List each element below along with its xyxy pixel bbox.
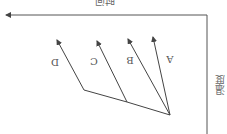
arrow-a xyxy=(153,37,170,115)
arrow-c xyxy=(97,41,127,102)
axes xyxy=(6,15,207,134)
time-axis-label: 时间 xyxy=(95,0,115,7)
arrow-d-label: D xyxy=(51,57,59,68)
arrow-d xyxy=(57,40,84,90)
arrow-b xyxy=(128,39,170,115)
arrow-c-label: C xyxy=(90,56,98,67)
temperature-time-diagram: 时间 温度 A B C D xyxy=(0,0,227,134)
arrow-b-label: B xyxy=(126,55,133,66)
base-line xyxy=(84,90,170,115)
arrow-a-label: A xyxy=(166,54,175,65)
temperature-axis-label: 温度 xyxy=(216,74,227,95)
